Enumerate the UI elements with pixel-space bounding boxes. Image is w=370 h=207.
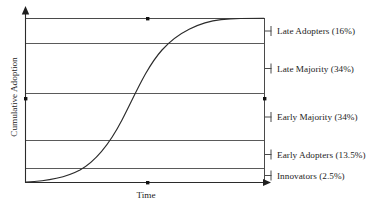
segment-tick-early-adopters — [265, 150, 272, 160]
segment-label-late-majority: Late Majority (34%) — [277, 64, 354, 74]
segment-tick-late-majority — [265, 64, 272, 74]
plot-background — [25, 18, 265, 183]
x-axis-title: Time — [0, 190, 292, 200]
selection-handle-right[interactable] — [263, 97, 266, 100]
segment-label-early-majority: Early Majority (34%) — [277, 112, 358, 122]
segment-label-innovators: Innovators (2.5%) — [277, 171, 345, 181]
selection-handle-bottom[interactable] — [146, 181, 149, 184]
segment-label-late-adopters: Late Adopters (16%) — [277, 26, 355, 36]
x-axis-arrow-icon — [263, 179, 271, 186]
segment-tick-innovators — [265, 171, 272, 181]
diffusion-of-innovation-figure: Late Adopters (16%) Late Majority (34%) … — [0, 0, 370, 207]
segment-tick-early-majority — [265, 112, 272, 122]
segment-label-early-adopters: Early Adopters (13.5%) — [277, 150, 366, 160]
segment-tick-late-adopters — [265, 26, 272, 36]
y-axis-title: Cumulative Adoption — [9, 32, 19, 162]
selection-handle-top[interactable] — [146, 17, 149, 20]
selection-handle-left[interactable] — [24, 97, 27, 100]
y-axis-arrow-icon — [22, 6, 29, 15]
